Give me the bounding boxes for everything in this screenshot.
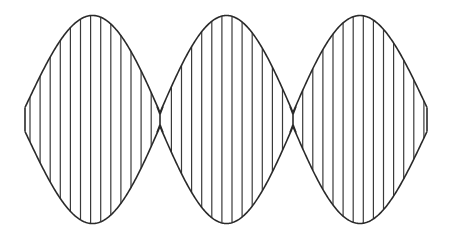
- lower-envelope-curve: [25, 127, 427, 224]
- upper-envelope-curve: [25, 16, 427, 113]
- vertical-hatching: [30, 16, 424, 224]
- envelope-diagram: [0, 0, 459, 239]
- pinch-crossings: [25, 107, 427, 133]
